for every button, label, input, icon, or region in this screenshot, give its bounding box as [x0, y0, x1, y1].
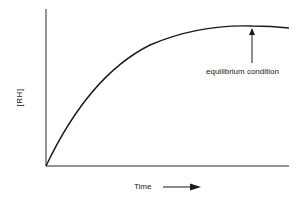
x-axis-label: Time: [134, 182, 151, 191]
equilibrium-annotation: equilibrium condition: [206, 67, 279, 76]
y-axis-label: [RH]: [15, 83, 24, 113]
rh-curve: [46, 26, 289, 166]
time-arrowhead-icon: [190, 184, 201, 191]
annotation-arrowhead-icon: [249, 28, 255, 35]
chart-canvas: [0, 0, 305, 201]
